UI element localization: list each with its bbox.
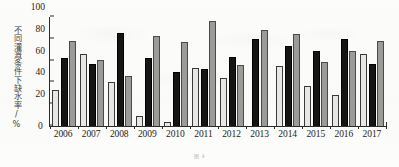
x-axis-tick-label: 2012 [217,129,245,145]
bar [61,58,68,126]
bar [252,39,259,126]
y-axis-tick-label: 80 [36,24,51,34]
figure-caption: 图 4 [0,152,399,159]
bar-group [78,17,106,126]
bar [261,30,268,126]
bar [80,54,87,126]
y-axis-tick-label: 20 [36,89,51,99]
plot-area: 20406080100 [49,17,386,127]
bar [332,95,339,126]
y-axis-tick-zero: 0 [38,121,43,131]
x-axis-tick-label: 2016 [330,129,358,145]
bar-group [218,17,246,126]
bar [201,69,208,126]
bar [220,78,227,126]
bar [276,66,283,126]
x-axis-tick-label: 2013 [246,129,274,145]
bar [360,54,367,126]
x-axis-tick-label: 2006 [49,129,77,145]
bar-group [162,17,190,126]
figure-bar-chart: 不同灌溉条件下缺水率/% 0 20406080100 2006200720082… [0,0,399,167]
x-axis-tick-mark [386,126,387,129]
x-axis-tick-label: 2014 [274,129,302,145]
x-axis-tick-label: 2007 [77,129,105,145]
bar-group [330,17,358,126]
bar [52,90,59,126]
bar [209,21,216,126]
bar [89,64,96,126]
bar [313,51,320,126]
bar [117,33,124,126]
bar-group [190,17,218,126]
y-axis-tick-label: 40 [36,67,51,77]
bar [349,51,356,126]
bar [192,68,199,126]
bar-group [274,17,302,126]
bar [164,122,171,126]
bar [237,65,244,126]
bar-group-container [50,17,386,126]
bar [173,72,180,127]
y-axis-tick-label: 60 [36,46,51,56]
y-axis-title: 不同灌溉条件下缺水率/% [9,14,23,142]
x-axis-tick-label: 2009 [133,129,161,145]
x-axis-tick-label: 2010 [161,129,189,145]
bar-group [134,17,162,126]
bar [293,34,300,126]
bar [125,76,132,126]
bar-group [302,17,330,126]
x-axis-tick-label: 2011 [189,129,217,145]
x-axis-tick-labels: 2006200720082009201020112012201320142015… [49,129,386,145]
bar [285,46,292,126]
bar-group [246,17,274,126]
bar-group [358,17,386,126]
bar [69,41,76,126]
bar [369,64,376,126]
bar [108,82,115,126]
bar [304,86,311,126]
bar [145,58,152,126]
bar [377,41,384,126]
bar [229,57,236,126]
bar [153,36,160,126]
bar [181,42,188,126]
bar [136,116,143,126]
x-axis-tick-label: 2008 [105,129,133,145]
bar-group [106,17,134,126]
y-axis-tick-label: 100 [31,2,50,12]
bar-group [50,17,78,126]
x-axis-tick-label: 2015 [302,129,330,145]
x-axis-tick-label: 2017 [358,129,386,145]
bar [341,39,348,126]
bar [97,60,104,126]
bar [321,62,328,126]
